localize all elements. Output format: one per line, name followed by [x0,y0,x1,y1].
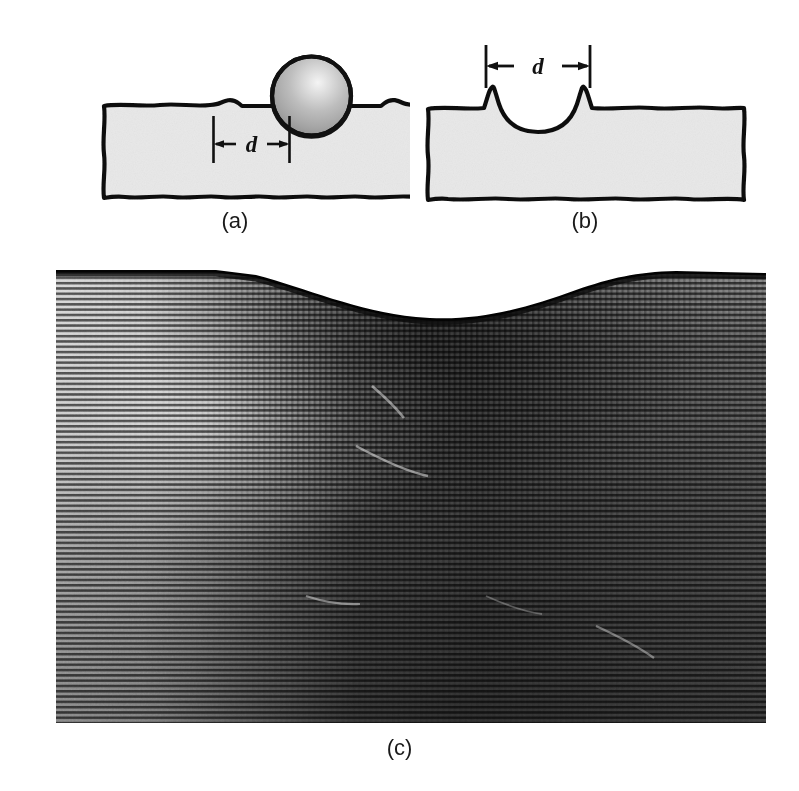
panel-b-residual-indentation: d (b) [410,18,760,248]
specimen-cross-section [56,266,766,723]
panel-b-caption: (b) [410,208,760,234]
dimension-label-d-a: d [246,132,258,157]
specimen-block-b [427,87,744,200]
dimension-label-d-b: d [532,54,544,79]
panel-a-caption: (a) [60,208,410,234]
panel-c-caption: (c) [0,735,799,761]
figure-root: d (a) [0,0,799,791]
panel-c-photomicrograph [56,266,766,723]
panel-a-indenter-on-specimen: d (a) [60,18,410,248]
